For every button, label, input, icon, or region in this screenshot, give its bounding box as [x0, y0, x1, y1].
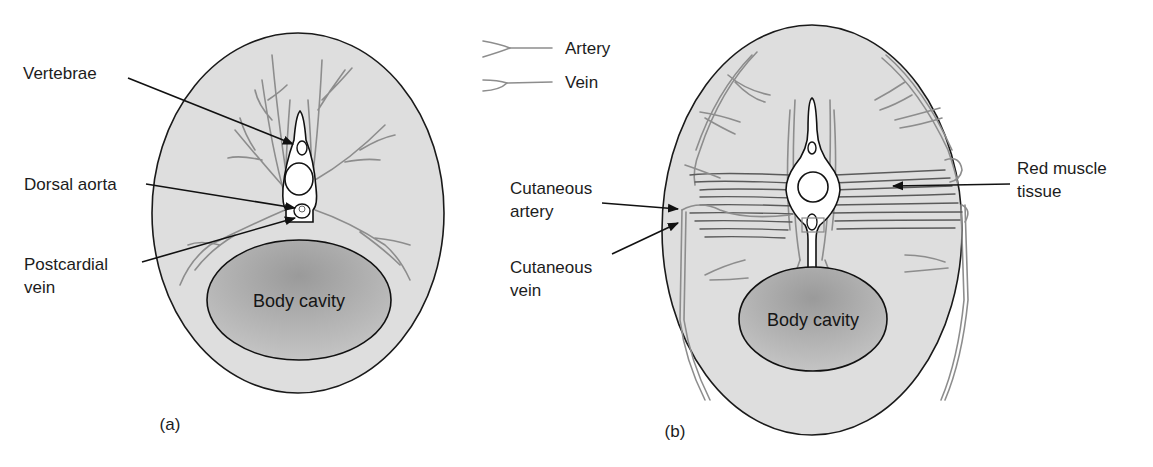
label-postcardial-vein-line1: Postcardial [24, 255, 108, 274]
label-cutaneous-vein-line1: Cutaneous [510, 258, 592, 277]
label-red-muscle-line2: tissue [1017, 182, 1061, 201]
label-dorsal-aorta: Dorsal aorta [24, 175, 117, 194]
legend-artery-label: Artery [565, 39, 611, 58]
label-red-muscle-line1: Red muscle [1017, 159, 1107, 178]
label-postcardial-vein-line2: vein [24, 278, 55, 297]
label-cutaneous-vein-line2: vein [510, 281, 541, 300]
body-cavity-b-label: Body cavity [767, 310, 859, 330]
body-cavity-a-label: Body cavity [253, 291, 345, 311]
fish-circulation-diagram: Artery Vein Body ca [0, 0, 1153, 467]
panel-b: Body cavity Cutaneous artery Cutaneous v… [510, 25, 1107, 441]
caption-b: (b) [665, 422, 686, 441]
legend-vein-label: Vein [565, 73, 598, 92]
label-cutaneous-artery-line2: artery [510, 202, 554, 221]
label-cutaneous-artery-line1: Cutaneous [510, 179, 592, 198]
vein-line-icon [483, 80, 552, 91]
panel-a: Body cavity Vertebrae Dorsal aorta Postc… [23, 33, 444, 434]
legend: Artery Vein [483, 39, 611, 92]
label-vertebrae: Vertebrae [23, 64, 97, 83]
artery-line-icon [483, 41, 552, 57]
caption-a: (a) [160, 415, 181, 434]
